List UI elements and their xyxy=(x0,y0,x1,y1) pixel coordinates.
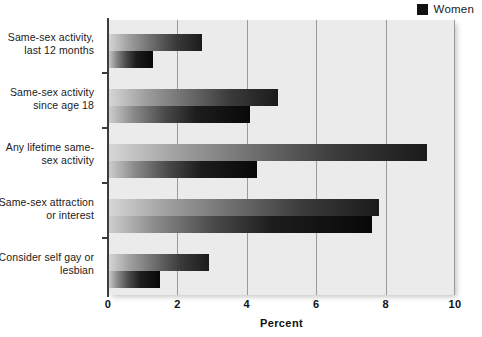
bar-women-any-lifetime-same-sex-activity xyxy=(108,161,257,178)
x-tick-label-4: 4 xyxy=(244,298,250,310)
x-tick-label-2: 2 xyxy=(174,298,180,310)
y-axis-line xyxy=(107,18,109,297)
x-tick-label-8: 8 xyxy=(382,298,388,310)
category-label-consider-self-gay-or-lesbian: Consider self gay or lesbian xyxy=(0,251,94,277)
plot-area xyxy=(108,20,455,295)
chart-legend: Women xyxy=(417,2,474,16)
category-label-line1: Same-sex attraction xyxy=(0,196,94,209)
x-tick-label-10: 10 xyxy=(449,298,462,310)
bar-men-same-sex-activity-since-age-18 xyxy=(108,89,278,106)
y-tick-2 xyxy=(102,127,109,129)
y-tick-3 xyxy=(102,182,109,184)
category-label-any-lifetime-same-sex-activity: Any lifetime same- sex activity xyxy=(0,141,94,167)
bar-women-same-sex-attraction-or-interest xyxy=(108,216,372,233)
x-axis-title: Percent xyxy=(108,317,455,329)
x-tick-label-6: 6 xyxy=(313,298,319,310)
bar-men-consider-self-gay-or-lesbian xyxy=(108,254,209,271)
category-label-line2: sex activity xyxy=(0,154,94,167)
y-tick-1 xyxy=(102,72,109,74)
bar-men-same-sex-activity-last-12-months xyxy=(108,34,202,51)
category-label-same-sex-attraction-or-interest: Same-sex attraction or interest xyxy=(0,196,94,222)
category-label-line1: Same-sex activity, xyxy=(0,31,94,44)
bar-men-any-lifetime-same-sex-activity xyxy=(108,144,427,161)
category-label-line2: last 12 months xyxy=(0,44,94,57)
legend-label-women: Women xyxy=(434,4,474,15)
category-label-line1: Consider self gay or xyxy=(0,251,94,264)
bar-women-same-sex-activity-last-12-months xyxy=(108,51,153,68)
bar-women-consider-self-gay-or-lesbian xyxy=(108,271,160,288)
bar-chart-figure: Women Same-sex activity, last 12 months xyxy=(0,0,482,337)
y-tick-4 xyxy=(102,237,109,239)
category-label-line2: lesbian xyxy=(0,264,94,277)
bar-men-same-sex-attraction-or-interest xyxy=(108,199,379,216)
category-label-same-sex-activity-since-age-18: Same-sex activity since age 18 xyxy=(0,86,94,112)
women-swatch-icon xyxy=(417,4,428,15)
category-label-line2: or interest xyxy=(0,209,94,222)
category-label-line1: Same-sex activity xyxy=(0,86,94,99)
gridline-10 xyxy=(454,20,455,295)
bar-women-same-sex-activity-since-age-18 xyxy=(108,106,250,123)
category-label-line2: since age 18 xyxy=(0,99,94,112)
x-tick-label-0: 0 xyxy=(105,298,111,310)
category-label-same-sex-activity-last-12-months: Same-sex activity, last 12 months xyxy=(0,31,94,57)
category-label-line1: Any lifetime same- xyxy=(0,141,94,154)
